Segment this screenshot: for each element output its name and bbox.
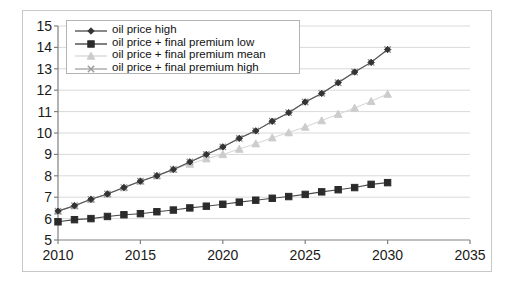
- y-tick-label: 14: [24, 40, 52, 54]
- x-tick-label: 2030: [363, 248, 413, 262]
- y-tick-label: 15: [24, 19, 52, 33]
- y-tick-label: 10: [24, 126, 52, 140]
- x-tick-label: 2020: [198, 248, 248, 262]
- legend-swatch-diamond-icon: [72, 23, 110, 35]
- x-tick-label: 2035: [445, 248, 495, 262]
- legend-item-premium-high: oil price + final premium high: [67, 61, 299, 74]
- x-tick-label: 2015: [115, 248, 165, 262]
- legend-label: oil price + final premium low: [110, 36, 254, 48]
- chart-figure: 56789101112131415 2010201520202025203020…: [0, 0, 513, 299]
- y-tick-label: 5: [24, 233, 52, 247]
- x-tick-label: 2025: [280, 248, 330, 262]
- y-tick-label: 13: [24, 62, 52, 76]
- legend-item-premium-low: oil price + final premium low: [67, 36, 299, 49]
- x-tick-label: 2010: [33, 248, 83, 262]
- legend-swatch-square-icon: [72, 36, 110, 48]
- x-tick-marks: [58, 240, 470, 244]
- y-tick-label: 7: [24, 190, 52, 204]
- chart-legend: oil price high oil price + final premium…: [66, 20, 300, 74]
- legend-label: oil price high: [110, 23, 177, 35]
- legend-swatch-x-icon: [72, 61, 110, 73]
- legend-label: oil price + final premium mean: [110, 48, 266, 60]
- legend-swatch-triangle-icon: [72, 48, 110, 60]
- y-tick-label: 9: [24, 147, 52, 161]
- y-tick-label: 11: [24, 105, 52, 119]
- legend-item-oil-price-high: oil price high: [67, 23, 299, 36]
- y-tick-label: 6: [24, 212, 52, 226]
- y-tick-label: 8: [24, 169, 52, 183]
- y-tick-label: 12: [24, 83, 52, 97]
- legend-item-premium-mean: oil price + final premium mean: [67, 48, 299, 61]
- legend-label: oil price + final premium high: [110, 61, 259, 73]
